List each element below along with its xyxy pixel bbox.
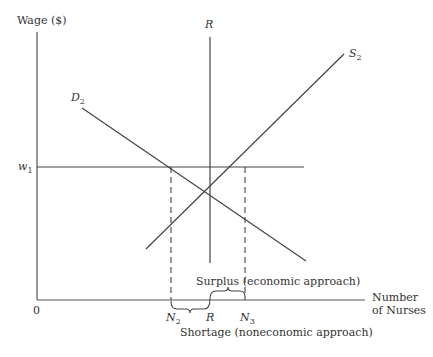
tick-r-symbol: R	[206, 311, 214, 324]
surplus-brace	[210, 287, 245, 299]
tick-n2-subscript: 2	[176, 317, 181, 326]
supply-demand-diagram	[0, 0, 433, 357]
demand-symbol: D	[71, 91, 80, 104]
x-axis-label-line1: Number	[372, 291, 426, 304]
shortage-brace	[171, 299, 210, 313]
x-axis-label: Number of Nurses	[372, 291, 426, 317]
y-axis-label: Wage ($)	[17, 15, 67, 26]
surplus-label: Surplus (economic approach)	[196, 276, 360, 287]
tick-r: R	[206, 312, 214, 323]
supply-symbol: S	[349, 47, 357, 60]
tick-n3: N3	[240, 312, 255, 326]
x-axis-label-line2: of Nurses	[372, 304, 426, 317]
supply-subscript: 2	[357, 53, 362, 62]
wage-symbol: w	[18, 160, 27, 173]
demand-label: D2	[71, 92, 85, 106]
supply-label: S2	[349, 48, 362, 62]
requirement-top-label: R	[205, 19, 213, 30]
wage-level-label: w1	[18, 161, 33, 175]
tick-n3-subscript: 3	[250, 317, 255, 326]
tick-n2-symbol: N	[166, 311, 176, 324]
tick-n3-symbol: N	[240, 311, 250, 324]
wage-subscript: 1	[27, 166, 32, 175]
shortage-label: Shortage (noneconomic approach)	[180, 327, 373, 338]
origin-label: 0	[33, 305, 40, 316]
demand-curve	[82, 108, 306, 261]
tick-n2: N2	[166, 312, 181, 326]
demand-subscript: 2	[80, 97, 85, 106]
